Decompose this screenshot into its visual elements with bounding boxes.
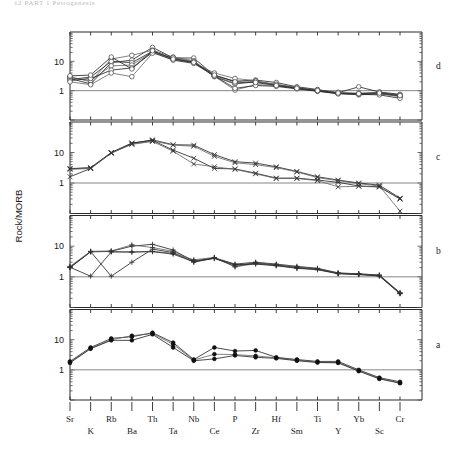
x-tick-label: Hf — [272, 414, 282, 424]
x-tick-label: Yb — [353, 414, 364, 424]
panel-label-d: d — [436, 61, 441, 71]
series-line — [70, 141, 400, 198]
x-tick-label: K — [87, 426, 94, 436]
series-line — [70, 334, 400, 383]
x-tick-label: Th — [148, 414, 158, 424]
x-tick-label: Sc — [375, 426, 384, 436]
x-tick-label: Ti — [314, 414, 322, 424]
panel-d: 101d — [54, 32, 441, 120]
x-axis-labels: SrKRbBaThTaNbCePZrHfSmTiYYbScCr — [66, 402, 405, 436]
panel-a: 101a — [54, 310, 441, 401]
panel-c: 101c — [54, 122, 440, 214]
panel-label-b: b — [436, 246, 441, 256]
y-tick-label: 10 — [54, 241, 64, 251]
y-tick-label: 1 — [59, 178, 64, 188]
y-tick-label: 10 — [54, 335, 64, 345]
x-tick-label: P — [232, 414, 237, 424]
y-tick-label: 1 — [59, 365, 64, 375]
panel-label-a: a — [436, 340, 441, 350]
y-axis-label: Rock/MORB — [13, 190, 24, 243]
panel-label-c: c — [436, 152, 440, 162]
y-tick-label: 10 — [54, 148, 64, 158]
series-line — [70, 141, 400, 211]
panel-b: 101b — [54, 216, 441, 308]
figure-root: 12 PART 1 Petrogenesis Rock/MORB101d101c… — [0, 0, 450, 456]
x-tick-label: Ba — [127, 426, 137, 436]
x-tick-label: Zr — [251, 426, 260, 436]
x-tick-label: Sr — [66, 414, 74, 424]
series-line — [70, 249, 400, 293]
y-tick-label: 1 — [59, 272, 64, 282]
x-tick-label: Ta — [169, 426, 178, 436]
series-line — [70, 251, 400, 293]
x-tick-label: Nb — [188, 414, 199, 424]
y-tick-label: 1 — [59, 86, 64, 96]
y-tick-label: 10 — [54, 57, 64, 67]
series-line — [70, 334, 400, 383]
x-tick-label: Cr — [396, 414, 405, 424]
x-tick-label: Ce — [209, 426, 219, 436]
x-tick-label: Sm — [291, 426, 303, 436]
x-tick-label: Rb — [106, 414, 117, 424]
series-line — [70, 252, 400, 294]
x-tick-label: Y — [335, 426, 342, 436]
spider-diagram-plot: Rock/MORB101d101c101b101aSrKRbBaThTaNbCe… — [0, 0, 450, 456]
